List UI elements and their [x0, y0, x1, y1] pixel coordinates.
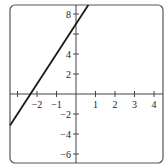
graph: −2 −1 1 2 3 4 8 4 2 −2 −4 −6 [0, 0, 167, 166]
plot-frame [10, 5, 163, 163]
y-tick-label-8: 8 [66, 9, 71, 20]
x-tick-label-m2: −2 [32, 99, 43, 110]
y-tick-label-2: 2 [66, 69, 71, 80]
x-tick-label-4: 4 [152, 99, 157, 110]
y-tick-label-4: 4 [66, 49, 71, 60]
line-series [10, 5, 88, 126]
x-tick-label-1: 1 [93, 99, 98, 110]
x-tick-label-2: 2 [113, 99, 118, 110]
y-tick-label-m2: −2 [60, 109, 71, 120]
x-tick-label-3: 3 [132, 99, 137, 110]
y-tick-label-m4: −4 [60, 129, 71, 140]
y-tick-label-m6: −6 [60, 149, 71, 160]
